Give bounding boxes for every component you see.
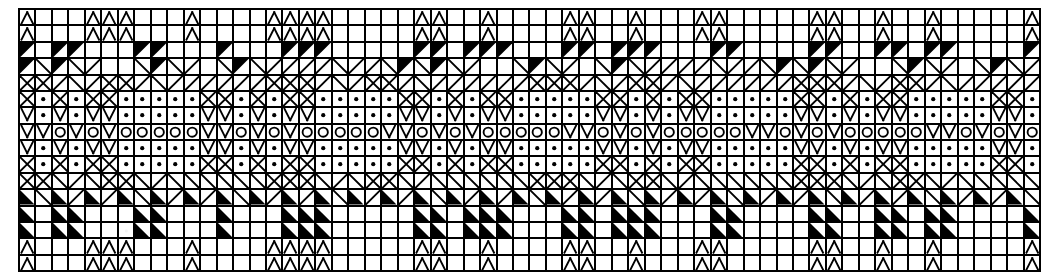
empty-cell-cell[interactable] [498, 10, 514, 26]
circle-symbol-cell[interactable] [514, 125, 530, 141]
cross-symbol-cell[interactable] [283, 174, 299, 190]
peak-symbol-cell[interactable] [876, 26, 892, 42]
cross-symbol-cell[interactable] [596, 157, 612, 173]
empty-cell-cell[interactable] [152, 26, 168, 42]
dot-symbol-cell[interactable] [185, 92, 201, 108]
filled-triangle-upper-left-cell[interactable] [152, 59, 168, 75]
slash-symbol-cell[interactable] [498, 190, 514, 206]
dot-symbol-cell[interactable] [778, 92, 794, 108]
empty-cell-cell[interactable] [695, 43, 711, 59]
vee-symbol-cell[interactable] [218, 108, 234, 124]
dot-symbol-cell[interactable] [152, 141, 168, 157]
slash-symbol-cell[interactable] [959, 76, 975, 92]
peak-symbol-cell[interactable] [876, 10, 892, 26]
empty-cell-cell[interactable] [679, 223, 695, 239]
empty-cell-cell[interactable] [778, 10, 794, 26]
empty-cell-cell[interactable] [745, 207, 761, 223]
empty-cell-cell[interactable] [745, 26, 761, 42]
slash-symbol-cell[interactable] [316, 59, 332, 75]
slash-symbol-cell[interactable] [745, 76, 761, 92]
filled-triangle-lower-left-cell[interactable] [514, 190, 530, 206]
empty-cell-cell[interactable] [86, 207, 102, 223]
slash-symbol-cell[interactable] [876, 76, 892, 92]
vee-symbol-cell[interactable] [498, 141, 514, 157]
empty-cell-cell[interactable] [366, 223, 382, 239]
empty-cell-cell[interactable] [349, 10, 365, 26]
vee-symbol-cell[interactable] [53, 108, 69, 124]
filled-triangle-lower-left-cell[interactable] [69, 207, 85, 223]
filled-triangle-upper-left-cell[interactable] [399, 59, 415, 75]
cross-symbol-cell[interactable] [415, 157, 431, 173]
dot-symbol-cell[interactable] [135, 141, 151, 157]
filled-triangle-upper-left-cell[interactable] [20, 43, 36, 59]
circle-symbol-cell[interactable] [152, 125, 168, 141]
cross-symbol-cell[interactable] [794, 92, 810, 108]
slash-symbol-cell[interactable] [1025, 76, 1041, 92]
cross-symbol-cell[interactable] [613, 92, 629, 108]
filled-triangle-lower-left-cell[interactable] [646, 207, 662, 223]
empty-cell-cell[interactable] [843, 239, 859, 255]
empty-cell-cell[interactable] [119, 223, 135, 239]
empty-cell-cell[interactable] [794, 43, 810, 59]
backslash-symbol-cell[interactable] [596, 59, 612, 75]
dot-symbol-cell[interactable] [959, 141, 975, 157]
vee-symbol-cell[interactable] [810, 141, 826, 157]
dot-symbol-cell[interactable] [959, 157, 975, 173]
cross-symbol-cell[interactable] [646, 157, 662, 173]
empty-cell-cell[interactable] [382, 43, 398, 59]
filled-triangle-lower-left-cell[interactable] [316, 207, 332, 223]
dot-symbol-cell[interactable] [662, 141, 678, 157]
empty-cell-cell[interactable] [992, 10, 1008, 26]
filled-triangle-upper-left-cell[interactable] [135, 43, 151, 59]
empty-cell-cell[interactable] [465, 10, 481, 26]
peak-symbol-cell[interactable] [695, 239, 711, 255]
filled-triangle-lower-left-cell[interactable] [975, 190, 991, 206]
empty-cell-cell[interactable] [745, 43, 761, 59]
filled-triangle-lower-left-cell[interactable] [218, 190, 234, 206]
slash-symbol-cell[interactable] [596, 190, 612, 206]
empty-cell-cell[interactable] [679, 256, 695, 272]
dot-symbol-cell[interactable] [909, 92, 925, 108]
dot-symbol-cell[interactable] [712, 157, 728, 173]
circle-symbol-cell[interactable] [300, 125, 316, 141]
empty-cell-cell[interactable] [547, 26, 563, 42]
vee-symbol-cell[interactable] [876, 108, 892, 124]
empty-cell-cell[interactable] [547, 256, 563, 272]
filled-triangle-lower-left-cell[interactable] [827, 207, 843, 223]
backslash-symbol-cell[interactable] [135, 59, 151, 75]
dot-symbol-cell[interactable] [382, 92, 398, 108]
cross-symbol-cell[interactable] [992, 157, 1008, 173]
empty-cell-cell[interactable] [530, 10, 546, 26]
backslash-symbol-cell[interactable] [415, 59, 431, 75]
empty-cell-cell[interactable] [761, 256, 777, 272]
vee-symbol-cell[interactable] [86, 108, 102, 124]
empty-cell-cell[interactable] [530, 43, 546, 59]
peak-symbol-cell[interactable] [432, 26, 448, 42]
slash-symbol-cell[interactable] [168, 190, 184, 206]
vee-symbol-cell[interactable] [596, 108, 612, 124]
dot-symbol-cell[interactable] [530, 92, 546, 108]
circle-symbol-cell[interactable] [481, 125, 497, 141]
peak-symbol-cell[interactable] [1025, 26, 1041, 42]
dot-symbol-cell[interactable] [761, 157, 777, 173]
backslash-symbol-cell[interactable] [481, 174, 497, 190]
dot-symbol-cell[interactable] [185, 157, 201, 173]
empty-cell-cell[interactable] [596, 256, 612, 272]
backslash-symbol-cell[interactable] [333, 59, 349, 75]
cross-symbol-cell[interactable] [810, 92, 826, 108]
cross-symbol-cell[interactable] [201, 157, 217, 173]
slash-symbol-cell[interactable] [300, 59, 316, 75]
empty-cell-cell[interactable] [596, 207, 612, 223]
empty-cell-cell[interactable] [349, 223, 365, 239]
cross-symbol-cell[interactable] [629, 76, 645, 92]
empty-cell-cell[interactable] [382, 10, 398, 26]
empty-cell-cell[interactable] [514, 223, 530, 239]
dot-symbol-cell[interactable] [69, 141, 85, 157]
empty-cell-cell[interactable] [1008, 223, 1024, 239]
empty-cell-cell[interactable] [168, 43, 184, 59]
vee-symbol-cell[interactable] [613, 125, 629, 141]
empty-cell-cell[interactable] [975, 26, 991, 42]
dot-symbol-cell[interactable] [168, 141, 184, 157]
slash-symbol-cell[interactable] [942, 174, 958, 190]
empty-cell-cell[interactable] [778, 223, 794, 239]
